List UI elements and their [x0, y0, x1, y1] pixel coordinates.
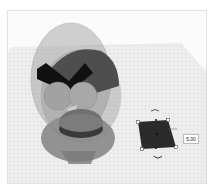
eye-left[interactable]: [44, 82, 72, 110]
3d-viewport[interactable]: 5.00: [7, 10, 207, 184]
dimension-label[interactable]: 5.00: [183, 134, 199, 144]
eye-right[interactable]: [69, 82, 97, 110]
workplane-scene[interactable]: [8, 11, 206, 183]
